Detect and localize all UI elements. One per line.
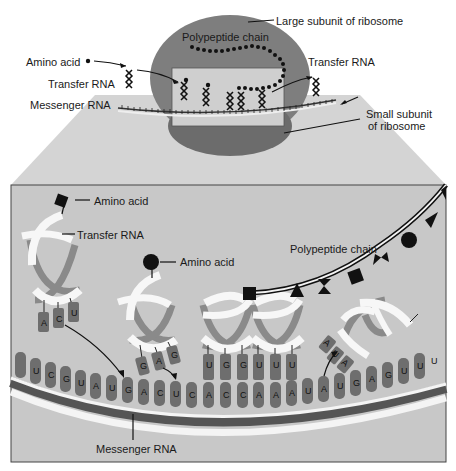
mrna-base: A bbox=[289, 388, 295, 398]
mrna-base: G bbox=[353, 378, 360, 388]
label-large-subunit: Large subunit of ribosome bbox=[276, 15, 403, 27]
mrna-base: C bbox=[189, 390, 196, 400]
anticodon-base: G bbox=[171, 350, 178, 360]
anticodon-base: U bbox=[289, 360, 296, 370]
label-small-subunit-2: of ribosome bbox=[368, 120, 425, 132]
anticodon-base: U bbox=[330, 348, 341, 360]
anticodon-base: U bbox=[71, 308, 78, 318]
label-overview-transfer-rna-right: Transfer RNA bbox=[308, 56, 375, 68]
anticodon-base: A bbox=[41, 318, 47, 328]
mrna-base: U bbox=[78, 378, 85, 388]
anticodon-base: A bbox=[156, 356, 162, 366]
mrna-base: G bbox=[125, 385, 132, 395]
mrna-base: A bbox=[93, 381, 99, 391]
label-detail-amino-acid-1: Amino acid bbox=[94, 195, 148, 207]
anticodon-base: U bbox=[273, 360, 280, 370]
label-overview-polypeptide: Polypeptide chain bbox=[182, 31, 269, 43]
mrna-base: A bbox=[141, 387, 147, 397]
mrna-sequence: U C G U A U G A C U C A C C A A A U A U … bbox=[0, 0, 456, 471]
mrna-base: G bbox=[63, 374, 70, 384]
mrna-base: C bbox=[48, 370, 55, 380]
anticodon-base: G bbox=[223, 360, 230, 370]
anticodon-base: A bbox=[339, 357, 350, 369]
label-detail-transfer-rna: Transfer RNA bbox=[77, 229, 144, 241]
label-detail-polypeptide: Polypeptide chain bbox=[290, 243, 377, 255]
mrna-base: G bbox=[385, 370, 392, 380]
mrna-base: U bbox=[337, 381, 344, 391]
mrna-base: C bbox=[157, 388, 164, 398]
anticodon-base: U bbox=[206, 360, 213, 370]
mrna-base: U bbox=[109, 383, 116, 393]
anticodon-base: A bbox=[321, 337, 332, 349]
anticodon-base: U bbox=[256, 360, 263, 370]
anticodon-base: C bbox=[56, 314, 63, 324]
label-overview-amino-acid: Amino acid bbox=[26, 56, 80, 68]
mrna-base: U bbox=[173, 389, 180, 399]
anticodon-base: G bbox=[140, 361, 147, 371]
mrna-base: U bbox=[417, 361, 424, 371]
label-overview-messenger-rna: Messenger RNA bbox=[30, 99, 111, 111]
label-detail-amino-acid-2: Amino acid bbox=[180, 256, 234, 268]
mrna-base: C bbox=[240, 390, 247, 400]
label-overview-transfer-rna-left: Transfer RNA bbox=[48, 78, 115, 90]
mrna-base: A bbox=[256, 390, 262, 400]
mrna-base: U bbox=[401, 366, 408, 376]
label-detail-messenger-rna: Messenger RNA bbox=[96, 443, 177, 455]
anticodon-base: G bbox=[240, 360, 247, 370]
mrna-base: C bbox=[223, 390, 230, 400]
mrna-base: U bbox=[431, 356, 438, 366]
mrna-base: A bbox=[321, 384, 327, 394]
mrna-base: A bbox=[273, 390, 279, 400]
mrna-base: U bbox=[305, 386, 312, 396]
mrna-base: A bbox=[206, 390, 212, 400]
mrna-base: A bbox=[369, 374, 375, 384]
mrna-base: U bbox=[33, 366, 40, 376]
label-small-subunit-1: Small subunit bbox=[366, 108, 432, 120]
